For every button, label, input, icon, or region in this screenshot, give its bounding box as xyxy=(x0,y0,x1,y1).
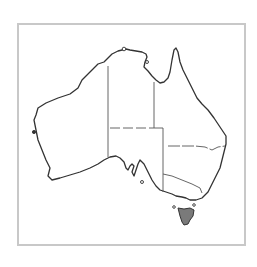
island-melville xyxy=(122,47,126,51)
region-tasmania xyxy=(178,208,194,225)
australia-map xyxy=(0,0,257,267)
island-kangaroo xyxy=(141,181,144,184)
island-west xyxy=(32,130,35,133)
island-groote xyxy=(146,61,149,64)
island-king xyxy=(173,206,176,209)
island-flinders xyxy=(193,204,196,207)
mainland-outline xyxy=(34,48,226,200)
